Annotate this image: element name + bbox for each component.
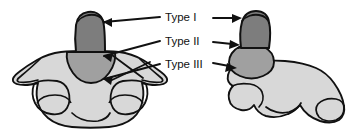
odontoid-fracture-figure: Type I Type II Type III [0,0,349,135]
lateral-odontoid-process [240,11,270,48]
label-type-1: Type I [165,11,196,23]
label-type-2: Type II [165,35,200,47]
type3-base-region-lateral [229,47,274,78]
figure-canvas: Type I Type II Type III [0,0,349,135]
label-type-3: Type III [165,58,203,70]
